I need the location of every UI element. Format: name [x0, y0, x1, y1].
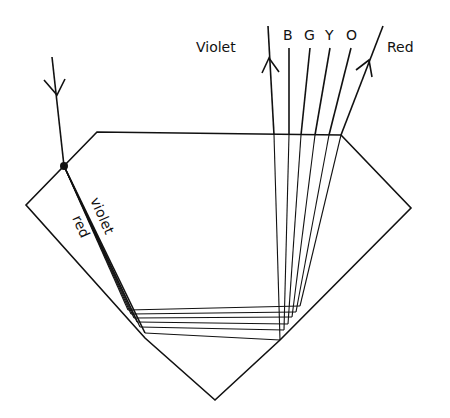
- label-violet: Violet: [196, 39, 236, 55]
- incident-ray: [52, 57, 64, 166]
- label-green: G: [304, 27, 315, 43]
- exit-ray-violet: [268, 26, 274, 135]
- upward-rays: [274, 135, 341, 340]
- label-red: Red: [387, 39, 414, 55]
- internal-refracted-rays: [64, 166, 145, 333]
- gem-dispersion-diagram: Violet B G Y O Red violet red: [0, 0, 450, 418]
- gem-outline: [26, 132, 411, 400]
- reflected-rays: [128, 306, 300, 340]
- label-yellow: Y: [324, 27, 334, 43]
- label-blue: B: [283, 27, 293, 43]
- diagram-canvas: Violet B G Y O Red violet red: [0, 0, 450, 418]
- exit-ray-green: [301, 48, 310, 135]
- label-red-internal: red: [69, 213, 93, 240]
- exit-ray-yellow: [315, 48, 330, 135]
- exit-ray-orange: [329, 48, 351, 135]
- label-orange: O: [346, 27, 357, 43]
